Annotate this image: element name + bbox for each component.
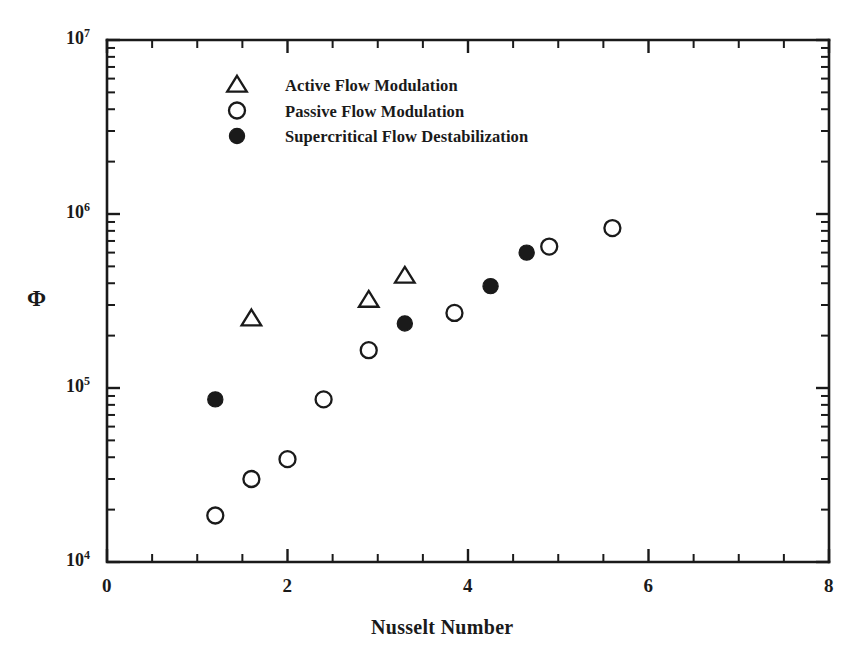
data-point-circle-open — [541, 239, 557, 255]
data-point-circle-filled — [483, 279, 498, 294]
y-tick-mantissa: 10 — [66, 28, 84, 48]
data-point-circle-filled — [208, 392, 223, 407]
data-point-circle-filled — [519, 245, 534, 260]
y-tick-label: 105 — [66, 377, 90, 395]
data-point-circle-filled — [397, 316, 412, 331]
data-point-circle-open — [280, 451, 296, 467]
y-tick-label: 106 — [66, 203, 90, 221]
data-point-circle-open — [446, 305, 462, 321]
legend-triangle-open-marker[interactable] — [227, 76, 247, 92]
data-point-circle-open — [207, 508, 223, 524]
legend-entry-label: Passive Flow Modulation — [285, 102, 464, 122]
y-tick-label: 107 — [66, 29, 90, 47]
data-point-triangle-open — [242, 310, 262, 326]
axis-left-bottom — [107, 40, 829, 562]
axis-frame — [107, 40, 829, 562]
x-axis-title: Nusselt Number — [371, 617, 514, 637]
y-tick-mantissa: 10 — [66, 550, 84, 570]
data-point-circle-open — [316, 391, 332, 407]
legend-circle-filled-marker[interactable] — [229, 128, 244, 143]
y-axis-title: Φ — [27, 287, 46, 310]
data-point-circle-open — [361, 342, 377, 358]
data-point-triangle-open — [395, 267, 415, 283]
legend-markers — [227, 76, 247, 144]
data-point-circle-open — [243, 471, 259, 487]
y-tick-exponent: 7 — [84, 26, 90, 40]
data-points-layer — [207, 220, 620, 523]
series-circle-open — [207, 220, 620, 523]
y-tick-exponent: 6 — [84, 200, 90, 214]
y-tick-mantissa: 10 — [66, 202, 84, 222]
y-tick-exponent: 4 — [84, 548, 90, 562]
legend-circle-open-marker[interactable] — [229, 103, 245, 119]
y-tick-exponent: 5 — [84, 374, 90, 388]
x-tick-label: 2 — [283, 576, 293, 595]
x-tick-label: 6 — [644, 576, 654, 595]
y-tick-label: 104 — [66, 551, 90, 569]
circle-open-marker — [229, 103, 245, 119]
x-tick-label: 4 — [463, 576, 473, 595]
data-point-circle-open — [604, 220, 620, 236]
triangle-open-marker — [227, 76, 247, 92]
legend-entry-label: Supercritical Flow Destabilization — [285, 127, 528, 147]
series-triangle-open — [242, 267, 415, 326]
y-axis-ticks — [107, 40, 829, 562]
legend-entry-label: Active Flow Modulation — [285, 76, 458, 96]
data-point-triangle-open — [359, 291, 379, 307]
x-tick-label: 0 — [102, 576, 112, 595]
circle-filled-marker — [229, 128, 244, 143]
y-tick-mantissa: 10 — [66, 376, 84, 396]
figure-container: 02468 107106105104 Nusselt Number Φ Acti… — [0, 0, 866, 671]
x-tick-label: 8 — [824, 576, 834, 595]
x-axis-ticks — [107, 40, 829, 562]
